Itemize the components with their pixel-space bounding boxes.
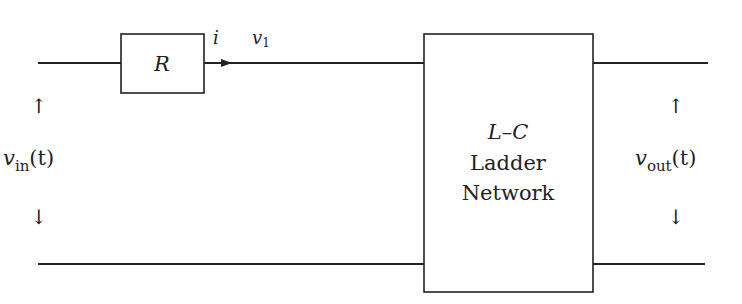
node-voltage-label: v1 xyxy=(252,27,270,50)
output-up-arrow-icon: ↑ xyxy=(668,94,685,118)
current-label: i xyxy=(213,27,219,48)
network-type-label: L–C xyxy=(487,120,529,144)
network-label-ladder: Ladder xyxy=(470,151,547,175)
output-down-arrow-icon: ↓ xyxy=(668,205,685,229)
circuit-diagram: R i v1 L–C Ladder Network ↑ vin(t) ↓ ↑ v… xyxy=(0,0,742,304)
input-up-arrow-icon: ↑ xyxy=(31,94,48,118)
output-voltage-label: vout(t) xyxy=(635,146,696,175)
network-label-network: Network xyxy=(462,181,555,205)
resistor-label: R xyxy=(153,52,170,76)
input-down-arrow-icon: ↓ xyxy=(31,205,48,229)
current-arrow-icon xyxy=(221,59,232,67)
input-voltage-label: vin(t) xyxy=(3,146,54,175)
